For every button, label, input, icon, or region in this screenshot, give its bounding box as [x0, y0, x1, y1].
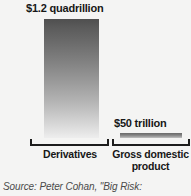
axis-baseline: [30, 144, 109, 146]
source-note: Source: Peter Cohan, "Big Risk:: [3, 181, 142, 192]
category-label-derivatives: Derivatives: [26, 148, 114, 160]
axis-bracket-gross-domestic-product: [112, 139, 190, 146]
axis-tick-right-icon: [107, 139, 109, 146]
gdp-value-label: $50 trillion: [114, 117, 167, 130]
axis-bracket-derivatives: [30, 139, 109, 146]
bar-chart-figure: $1.2 quadrillion $50 trillion Derivative…: [0, 0, 191, 196]
bar-gross-domestic-product: [120, 133, 182, 138]
axis-baseline: [112, 144, 190, 146]
derivatives-value-label: $1.2 quadrillion: [26, 2, 104, 15]
category-label-gross-domestic-product: Gross domestic product: [110, 148, 191, 172]
axis-tick-right-icon: [188, 139, 190, 146]
bar-derivatives: [44, 19, 99, 138]
